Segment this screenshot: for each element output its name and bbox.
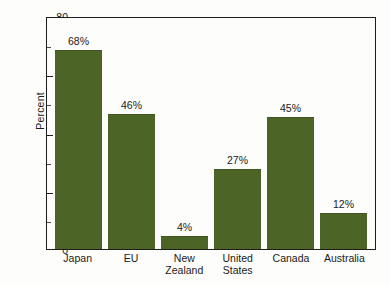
bar[interactable] bbox=[214, 169, 261, 249]
x-axis-label-line: Canada bbox=[264, 252, 317, 264]
bar-chart: Percent 020406080 68%46%4%27%45%12% Japa… bbox=[0, 0, 390, 285]
bar[interactable] bbox=[161, 236, 208, 249]
x-axis-label-line: EU bbox=[104, 252, 157, 264]
bar-slot: 12% bbox=[317, 18, 370, 249]
bar-value-label: 46% bbox=[102, 100, 162, 111]
x-axis-category-labels: JapanEUNewZealandUnitedStatesCanadaAustr… bbox=[47, 252, 375, 276]
x-axis-label-line: Japan bbox=[51, 252, 104, 264]
x-axis-label: Canada bbox=[264, 252, 317, 276]
bar-slot: 27% bbox=[211, 18, 264, 249]
bar-value-label: 12% bbox=[314, 199, 374, 210]
x-axis-label-line: New bbox=[158, 252, 211, 264]
bar-slot: 68% bbox=[52, 18, 105, 249]
plot-area: 68%46%4%27%45%12% bbox=[46, 17, 376, 250]
bar[interactable] bbox=[320, 213, 367, 249]
x-axis-label-line: United bbox=[211, 252, 264, 264]
x-axis-label: EU bbox=[104, 252, 157, 276]
bar-value-label: 4% bbox=[155, 222, 215, 233]
bar[interactable] bbox=[55, 50, 102, 249]
x-axis-label: Japan bbox=[51, 252, 104, 276]
bar[interactable] bbox=[108, 114, 155, 249]
x-axis-label: NewZealand bbox=[158, 252, 211, 276]
x-axis-label: Australia bbox=[318, 252, 371, 276]
x-axis-label-line: Zealand bbox=[158, 264, 211, 276]
x-axis-label-line: Australia bbox=[318, 252, 371, 264]
bar-value-label: 68% bbox=[49, 36, 109, 47]
bar-value-label: 45% bbox=[261, 103, 321, 114]
bars-container: 68%46%4%27%45%12% bbox=[48, 18, 374, 249]
bar[interactable] bbox=[267, 117, 314, 249]
bar-value-label: 27% bbox=[208, 155, 268, 166]
bar-slot: 45% bbox=[264, 18, 317, 249]
bar-slot: 46% bbox=[105, 18, 158, 249]
x-axis-label-line: States bbox=[211, 264, 264, 276]
x-axis-label: UnitedStates bbox=[211, 252, 264, 276]
bar-slot: 4% bbox=[158, 18, 211, 249]
